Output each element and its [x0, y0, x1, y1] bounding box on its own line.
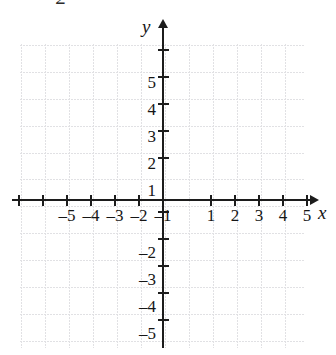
x-axis-tick-label: 2: [223, 207, 247, 224]
x-axis-tick: [210, 195, 212, 206]
y-axis-tick: [158, 319, 169, 321]
x-axis-tick: [234, 195, 236, 206]
x-axis-tick-label: –4: [79, 207, 103, 224]
arrow-up-icon: [158, 19, 168, 28]
x-axis-tick-label: –2: [127, 207, 151, 224]
x-axis-tick-label: –5: [55, 207, 79, 224]
x-axis-tick: [66, 195, 68, 206]
x-axis-tick: [306, 195, 308, 206]
x-axis-tick: [18, 195, 20, 206]
x-axis-tick-label: –1: [151, 207, 175, 224]
y-axis-tick-label: 4: [126, 101, 156, 118]
y-axis-tick: [158, 238, 169, 240]
x-axis-tick-label: 1: [199, 207, 223, 224]
y-axis-tick-label: –2: [126, 244, 156, 261]
y-axis-tick-label: 5: [126, 74, 156, 91]
y-axis-tick: [158, 49, 169, 51]
x-axis-tick-label: –3: [103, 207, 127, 224]
y-axis-tick: [158, 265, 169, 267]
figure-number: 2: [56, 0, 67, 8]
y-axis-tick-label: –3: [126, 271, 156, 288]
y-axis-label: y: [142, 17, 150, 36]
x-axis-tick: [258, 195, 260, 206]
y-axis-tick-label: 1: [126, 182, 156, 199]
x-axis-label: x: [318, 203, 326, 222]
y-axis-tick: [158, 130, 169, 132]
coordinate-plane-figure: 2 –5–4–3–2–11234554321–2–3–4–5 y x: [0, 0, 336, 355]
x-axis-tick-label: 5: [295, 207, 319, 224]
x-axis-tick-label: 4: [271, 207, 295, 224]
x-axis-tick: [42, 195, 44, 206]
y-axis-tick: [158, 103, 169, 105]
x-axis-tick-label: 3: [247, 207, 271, 224]
x-axis-tick: [282, 195, 284, 206]
y-axis-tick: [158, 292, 169, 294]
y-axis-tick-label: –5: [126, 325, 156, 342]
x-axis-tick: [90, 195, 92, 206]
y-axis-tick-label: 3: [126, 128, 156, 145]
y-axis-tick: [158, 76, 169, 78]
x-axis-tick: [114, 195, 116, 206]
y-axis-tick: [158, 157, 169, 159]
y-axis-tick-label: 2: [126, 155, 156, 172]
y-axis-tick-label: –4: [126, 298, 156, 315]
